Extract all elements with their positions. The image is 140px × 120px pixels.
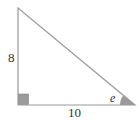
angle-label: e: [110, 91, 116, 105]
right-angle-marker: [19, 94, 29, 104]
angle-e-marker: [120, 96, 135, 105]
right-triangle-diagram: 8 10 e: [0, 0, 140, 120]
triangle-outline: [18, 8, 135, 105]
triangle-figure: 8 10 e: [0, 0, 140, 120]
horizontal-leg-label: 10: [68, 105, 81, 120]
vertical-leg-label: 8: [8, 50, 15, 65]
